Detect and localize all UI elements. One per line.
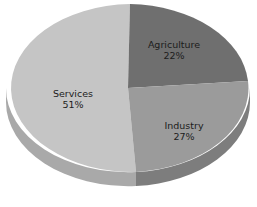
label-services-name: Services [53,88,93,99]
label-agriculture-name: Agriculture [148,39,200,50]
label-agriculture-pct: 22% [163,50,184,61]
label-industry-name: Industry [164,120,203,131]
label-services-pct: 51% [62,99,83,110]
label-industry-pct: 27% [173,131,194,142]
pie-chart: Agriculture 22% Industry 27% Services 51… [0,0,257,207]
